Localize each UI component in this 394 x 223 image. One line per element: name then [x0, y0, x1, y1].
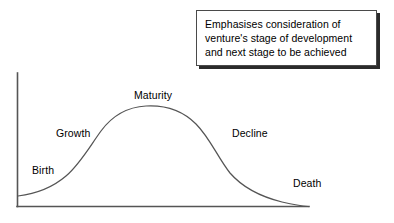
callout-note-line-1: Emphasises consideration of [205, 17, 369, 31]
stage-label-growth: Growth [56, 127, 90, 139]
lifecycle-diagram: Birth Growth Maturity Decline Death Emph… [0, 0, 394, 223]
stage-label-death: Death [293, 177, 322, 189]
stage-label-maturity: Maturity [134, 89, 172, 101]
callout-note-box: Emphasises consideration of venture's st… [196, 10, 377, 66]
lifecycle-curve [18, 106, 308, 207]
stage-label-decline: Decline [232, 127, 268, 139]
callout-note-line-3: and next stage to be achieved [205, 45, 369, 59]
stage-label-birth: Birth [32, 164, 54, 176]
callout-note-line-2: venture's stage of development [205, 31, 369, 45]
